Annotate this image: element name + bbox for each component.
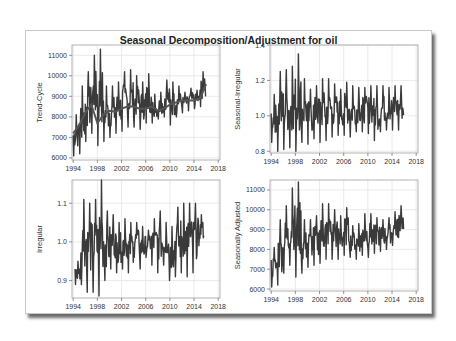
y-tick-label: 1.0: [255, 112, 265, 119]
x-tick-label: 2006: [138, 303, 154, 310]
x-tick-label: 2018: [210, 303, 226, 310]
x-tick-label: 2014: [384, 158, 400, 165]
y-tick-label: 6000: [51, 154, 67, 161]
panel-seasonal-irregular: 19941998200220062010201420180.81.01.21.4…: [233, 42, 424, 166]
y-axis-label: Trend-Cycle: [35, 82, 44, 123]
y-tick-label: 9000: [51, 93, 67, 100]
x-tick-label: 2018: [210, 165, 226, 172]
x-tick-label: 1994: [65, 303, 81, 310]
series-line: [73, 49, 205, 156]
y-axis-label: Seasonally Adjusted: [233, 202, 242, 270]
x-tick-label: 2002: [114, 303, 130, 310]
x-tick-label: 2010: [162, 303, 178, 310]
panel-trend-cycle: 1994199820022006201020142018600070008000…: [35, 45, 226, 172]
y-tick-label: 1.2: [255, 77, 265, 84]
x-tick-label: 2010: [162, 165, 178, 172]
x-tick-label: 1998: [288, 296, 304, 303]
y-tick-label: 1.0: [57, 238, 67, 245]
y-tick-label: 7000: [51, 134, 67, 141]
y-tick-label: 11000: [48, 52, 67, 59]
y-tick-label: 1.4: [255, 42, 265, 49]
panel-seasonally-adjusted: 1994199820022006201020142018600070008000…: [233, 180, 424, 303]
x-tick-label: 2014: [186, 165, 202, 172]
x-tick-label: 2002: [312, 296, 328, 303]
y-tick-label: 9000: [249, 226, 265, 233]
y-tick-label: 11000: [246, 186, 265, 193]
y-axis-label: Seasonal-Irregular: [233, 68, 242, 130]
x-tick-label: 2014: [186, 303, 202, 310]
x-tick-label: 2018: [408, 158, 424, 165]
series-line: [75, 180, 204, 296]
x-tick-label: 1994: [65, 165, 81, 172]
x-tick-label: 1994: [263, 158, 279, 165]
x-tick-label: 2014: [384, 296, 400, 303]
y-tick-label: 0.9: [57, 277, 67, 284]
x-tick-label: 2002: [312, 158, 328, 165]
x-tick-label: 2006: [138, 165, 154, 172]
x-tick-label: 1998: [90, 303, 106, 310]
x-tick-label: 2010: [360, 158, 376, 165]
chart-canvas: 1994199820022006201020142018600070008000…: [0, 0, 456, 341]
y-axis-label: Irregular: [35, 225, 44, 253]
x-tick-label: 1998: [288, 158, 304, 165]
x-tick-label: 2018: [408, 296, 424, 303]
x-tick-label: 1998: [90, 165, 106, 172]
series-line: [271, 54, 403, 151]
y-tick-label: 0.8: [255, 148, 265, 155]
x-tick-label: 2006: [336, 158, 352, 165]
y-tick-label: 6000: [249, 286, 265, 293]
x-tick-label: 1994: [263, 296, 279, 303]
series-line: [271, 182, 403, 287]
y-tick-label: 10000: [246, 206, 266, 213]
y-tick-label: 7000: [249, 266, 265, 273]
y-tick-label: 8000: [249, 246, 265, 253]
x-tick-label: 2002: [114, 165, 130, 172]
y-tick-label: 1.1: [57, 200, 67, 207]
panel-irregular: 19941998200220062010201420180.91.01.1Irr…: [35, 180, 226, 310]
y-tick-label: 10000: [48, 72, 68, 79]
x-tick-label: 2006: [336, 296, 352, 303]
x-tick-label: 2010: [360, 296, 376, 303]
y-tick-label: 8000: [51, 113, 67, 120]
